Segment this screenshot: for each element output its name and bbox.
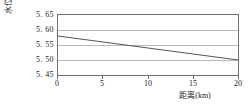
y-tick-label-5-55: 5. 55 — [16, 40, 54, 49]
x-tick-label-15: 15 — [181, 79, 205, 88]
x-tick-label-10: 10 — [136, 79, 160, 88]
x-axis-title: 距离(km) — [140, 89, 250, 100]
x-tick-label-0: 0 — [45, 79, 69, 88]
y-tick-label-5-65: 5. 65 — [16, 10, 54, 19]
plot-area — [57, 14, 239, 76]
x-tick-label-5: 5 — [90, 79, 114, 88]
y-tick-label-5-45: 5. 45 — [16, 70, 54, 79]
y-tick-label-5-60: 5. 60 — [16, 25, 54, 34]
y-axis-title: 水位(m) — [2, 0, 16, 28]
series-line-water-level — [58, 15, 238, 75]
x-tick-label-20: 20 — [226, 79, 250, 88]
water-level-distance-chart: 水位(m) 5. 65 5. 60 5. 55 5. 50 5. 45 0 5 … — [0, 0, 252, 104]
y-tick-label-5-50: 5. 50 — [16, 55, 54, 64]
